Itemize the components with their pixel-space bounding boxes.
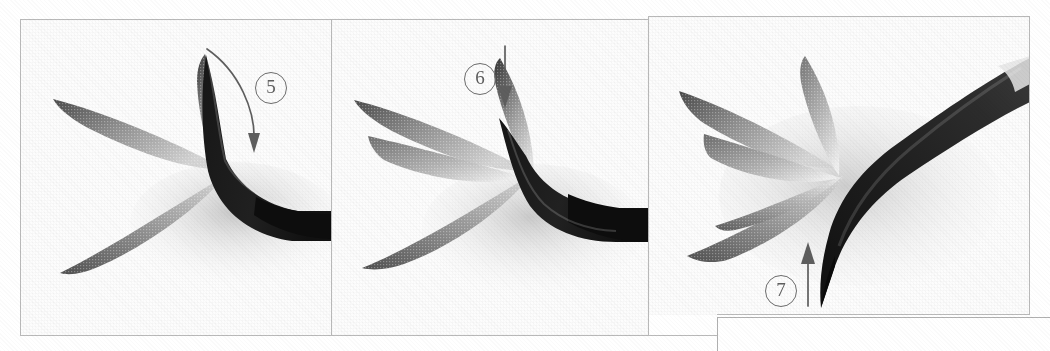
frame-left-edge (20, 19, 21, 336)
continuation-box (717, 317, 1050, 351)
photo-panel-step-7: 7 (649, 16, 1030, 315)
frame-top-left-group (20, 19, 649, 20)
curved-down-arrow-head (248, 133, 260, 153)
frame-divider-1 (331, 19, 332, 336)
photo-panel-step-5: 5 (20, 19, 331, 336)
frame-top-panel-3 (648, 16, 1030, 17)
step-number-badge-5: 5 (255, 72, 287, 104)
frame-bottom-panel-3 (717, 314, 1030, 315)
ink-artwork-panel-5 (20, 19, 331, 336)
frame-right-panel-3 (1029, 16, 1030, 314)
page-canvas: 5 (0, 0, 1050, 351)
photo-panel-step-6: 6 (332, 18, 648, 335)
frame-divider-2 (648, 17, 649, 336)
step-number-badge-7: 7 (765, 275, 797, 307)
step-number-badge-6: 6 (464, 63, 496, 95)
ink-artwork-panel-7 (649, 16, 1030, 315)
frame-bottom-left-group (20, 335, 720, 336)
